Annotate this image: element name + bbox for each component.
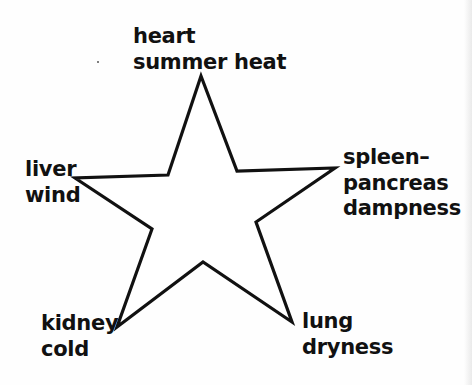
label-kidney-cold: kidney cold xyxy=(41,311,118,362)
label-climate: dampness xyxy=(343,196,461,222)
label-organ: lung xyxy=(302,309,393,335)
label-lung-dryness: lung dryness xyxy=(302,309,393,360)
label-spleen-pancreas-dampness: spleen– pancreas dampness xyxy=(343,145,461,222)
label-organ: liver xyxy=(25,157,80,183)
diagram-canvas: heart summer heat liver wind spleen– pan… xyxy=(0,0,472,385)
label-organ: heart xyxy=(133,24,286,50)
label-climate: wind xyxy=(25,183,80,209)
label-liver-wind: liver wind xyxy=(25,157,80,208)
label-organ: spleen– xyxy=(343,145,461,171)
scan-speck xyxy=(97,61,99,63)
label-climate: summer heat xyxy=(133,50,286,76)
scan-edge-shade xyxy=(464,0,472,385)
label-heart-summer-heat: heart summer heat xyxy=(133,24,286,75)
label-organ: kidney xyxy=(41,311,118,337)
star-outline xyxy=(75,76,335,327)
label-climate: cold xyxy=(41,337,118,363)
label-organ-cont: pancreas xyxy=(343,171,461,197)
label-climate: dryness xyxy=(302,335,393,361)
